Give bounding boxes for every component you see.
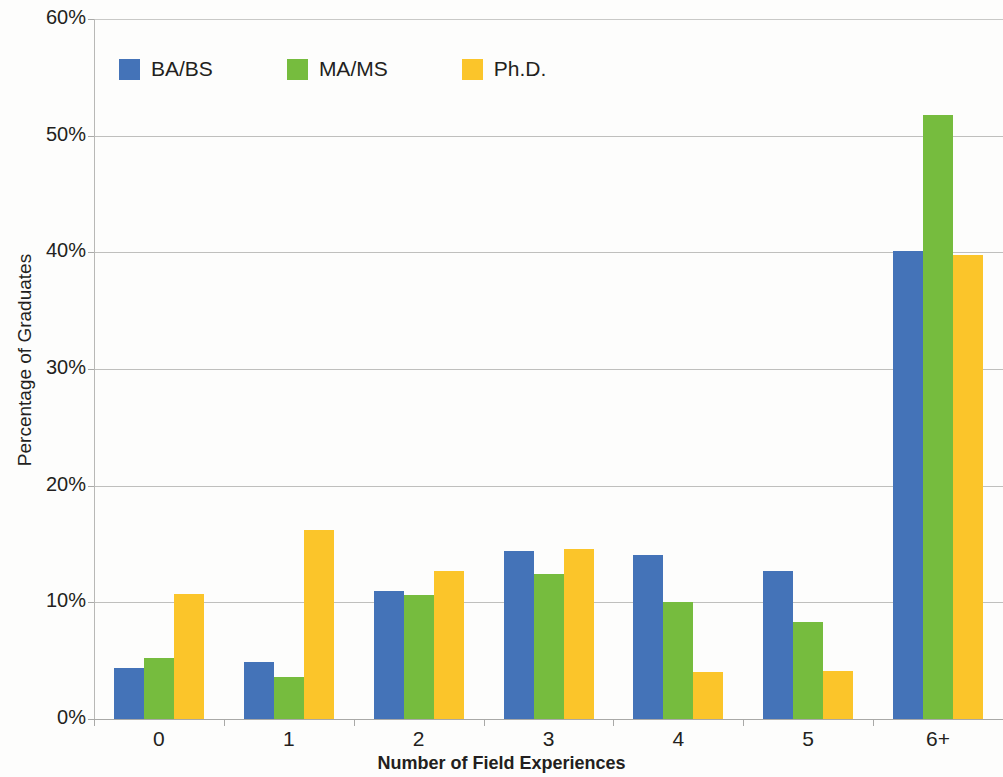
y-tick-label-0%: 0% xyxy=(0,706,86,729)
legend: BA/BSMA/MSPh.D. xyxy=(119,57,546,81)
legend-item-BABS[interactable]: BA/BS xyxy=(119,57,213,81)
legend-swatch-icon xyxy=(119,59,140,80)
bar-PhD-0 xyxy=(174,594,204,719)
legend-swatch-icon xyxy=(462,59,483,80)
x-tick-mark xyxy=(94,719,95,726)
y-tick-label-20%: 20% xyxy=(0,473,86,496)
bar-MAMS-6+ xyxy=(923,115,953,719)
bar-MAMS-3 xyxy=(534,574,564,719)
bar-MAMS-0 xyxy=(144,658,174,719)
bar-MAMS-2 xyxy=(404,595,434,719)
bar-BABS-6+ xyxy=(893,251,923,719)
x-tick-label-2: 2 xyxy=(359,727,479,751)
bar-BABS-4 xyxy=(633,555,663,720)
bar-PhD-6+ xyxy=(953,255,983,719)
x-tick-label-0: 0 xyxy=(99,727,219,751)
bar-MAMS-1 xyxy=(274,677,304,719)
chart-page: Percentage of Graduates 0%10%20%30%40%50… xyxy=(0,0,1003,777)
x-tick-mark xyxy=(354,719,355,726)
bar-MAMS-4 xyxy=(663,602,693,719)
bar-BABS-3 xyxy=(504,551,534,719)
x-tick-label-6+: 6+ xyxy=(878,727,998,751)
bars-layer xyxy=(94,19,1003,719)
bar-BABS-0 xyxy=(114,668,144,719)
bar-PhD-2 xyxy=(434,571,464,719)
legend-label: BA/BS xyxy=(151,57,213,81)
legend-item-MAMS[interactable]: MA/MS xyxy=(287,57,388,81)
legend-swatch-icon xyxy=(287,59,308,80)
bar-MAMS-5 xyxy=(793,622,823,719)
x-axis-line xyxy=(94,719,1003,720)
x-tick-label-4: 4 xyxy=(618,727,738,751)
bar-PhD-3 xyxy=(564,549,594,719)
x-tick-mark xyxy=(224,719,225,726)
y-tick-label-60%: 60% xyxy=(0,6,86,29)
y-tick-label-30%: 30% xyxy=(0,356,86,379)
bar-PhD-5 xyxy=(823,671,853,719)
x-tick-mark xyxy=(484,719,485,726)
bar-BABS-5 xyxy=(763,571,793,719)
legend-label: MA/MS xyxy=(319,57,388,81)
bar-PhD-1 xyxy=(304,530,334,719)
legend-label: Ph.D. xyxy=(494,57,547,81)
x-tick-label-1: 1 xyxy=(229,727,349,751)
legend-item-PhD[interactable]: Ph.D. xyxy=(462,57,547,81)
y-tick-label-40%: 40% xyxy=(0,239,86,262)
x-tick-mark xyxy=(873,719,874,726)
bar-BABS-2 xyxy=(374,591,404,719)
x-tick-mark xyxy=(743,719,744,726)
x-axis-title: Number of Field Experiences xyxy=(0,753,1003,774)
bar-BABS-1 xyxy=(244,662,274,719)
x-tick-label-3: 3 xyxy=(489,727,609,751)
x-tick-mark xyxy=(613,719,614,726)
bar-PhD-4 xyxy=(693,672,723,719)
x-tick-label-5: 5 xyxy=(748,727,868,751)
y-tick-label-10%: 10% xyxy=(0,589,86,612)
y-tick-label-50%: 50% xyxy=(0,123,86,146)
